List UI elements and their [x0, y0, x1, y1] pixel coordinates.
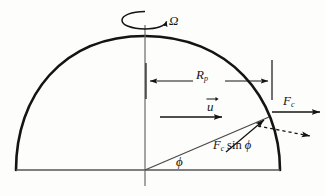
force-label: Fc [283, 94, 295, 109]
rotation-ellipse [122, 12, 167, 29]
force-component-symbol: F [213, 138, 221, 152]
omega-label: Ω [169, 14, 178, 27]
force-subscript: c [291, 100, 295, 109]
radius-symbol: R [196, 67, 204, 82]
physics-diagram-figure: Ω Rp u Fc Fcsinϕ ϕ [0, 0, 325, 196]
dashed-projection-arrow [258, 126, 310, 136]
radius-subscript: p [204, 74, 208, 83]
force-symbol: F [283, 93, 291, 108]
diagram-canvas [0, 0, 325, 196]
angle-symbol-in-component: ϕ [245, 138, 251, 152]
force-component-label: Fcsinϕ [213, 139, 251, 153]
sine-function: sin [227, 138, 242, 152]
radius-label: Rp [196, 68, 208, 83]
velocity-symbol: u [207, 99, 214, 114]
force-component-subscript: c [221, 144, 224, 153]
vector-overarrow-icon [206, 96, 219, 101]
angle-label: ϕ [176, 155, 183, 168]
velocity-label: u [207, 99, 214, 113]
